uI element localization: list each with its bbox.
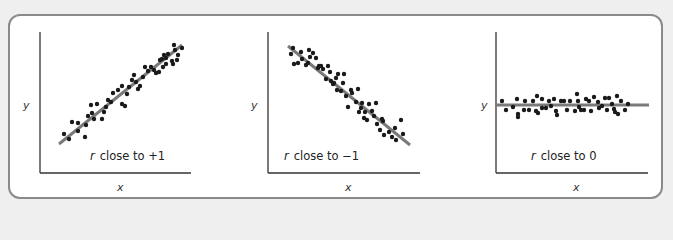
data-point [62, 132, 66, 136]
data-point [89, 103, 93, 107]
data-point [360, 101, 364, 105]
fit-line [288, 46, 410, 145]
y-axis-label: y [22, 99, 30, 112]
data-point [626, 102, 630, 106]
caption: rclose to +1 [90, 149, 165, 163]
data-point [535, 94, 539, 98]
x-axis-label: x [344, 181, 352, 194]
data-point [357, 110, 361, 114]
data-point [399, 118, 403, 122]
data-point [516, 115, 520, 119]
data-point [390, 135, 394, 139]
data-point [605, 108, 609, 112]
data-point [314, 56, 318, 60]
data-point [363, 110, 367, 114]
data-point [387, 130, 391, 134]
data-point [565, 108, 569, 112]
data-point [381, 119, 385, 123]
r-symbol: r [90, 149, 96, 163]
panel-positive-correlation: y x rclose to +1 [22, 32, 191, 194]
r-symbol: r [284, 149, 290, 163]
data-point [365, 118, 369, 122]
data-point [332, 81, 336, 85]
data-point [527, 108, 531, 112]
data-point [76, 129, 80, 133]
data-point [328, 70, 332, 74]
data-point [152, 68, 156, 72]
data-point [143, 65, 147, 69]
data-point [356, 87, 360, 91]
data-point [393, 126, 397, 130]
data-point [536, 111, 540, 115]
data-point [158, 58, 162, 62]
data-point [504, 108, 508, 112]
data-point [70, 120, 74, 124]
data-point [109, 100, 113, 104]
data-point [370, 109, 374, 113]
data-point [549, 104, 553, 108]
data-point [164, 62, 168, 66]
data-point [374, 101, 378, 105]
data-point [86, 114, 90, 118]
data-point [100, 117, 104, 121]
data-point [603, 96, 607, 100]
data-point [339, 89, 343, 93]
data-point [540, 106, 544, 110]
data-point [607, 96, 611, 100]
data-point [596, 100, 600, 104]
data-point [589, 109, 593, 113]
data-point [170, 59, 174, 63]
data-point [552, 97, 556, 101]
data-point [540, 97, 544, 101]
x-axis-label: x [572, 181, 580, 194]
data-point [367, 102, 371, 106]
data-point [67, 137, 71, 141]
data-point [568, 99, 572, 103]
data-point [307, 48, 311, 52]
data-point [111, 91, 115, 95]
data-point [562, 99, 566, 103]
data-point [573, 109, 577, 113]
data-point [311, 51, 315, 55]
data-point [326, 64, 330, 68]
data-point [575, 92, 579, 96]
data-point [616, 112, 620, 116]
data-point [120, 84, 124, 88]
data-point [592, 95, 596, 99]
y-axis-label: y [250, 99, 258, 112]
data-point [125, 92, 129, 96]
data-point [116, 88, 120, 92]
data-point [555, 113, 559, 117]
data-point [289, 52, 293, 56]
data-point [130, 78, 134, 82]
data-point [308, 55, 312, 59]
data-point [341, 81, 345, 85]
caption: rclose to −1 [284, 149, 359, 163]
data-point [334, 76, 338, 80]
data-point [394, 138, 398, 142]
data-point [127, 85, 131, 89]
data-point [544, 106, 548, 110]
data-point [523, 99, 527, 103]
r-symbol: r [531, 149, 537, 163]
data-point [600, 104, 604, 108]
data-point [321, 67, 325, 71]
caption-text: close to −1 [294, 149, 359, 163]
data-point [141, 75, 145, 79]
data-point [610, 102, 614, 106]
data-point [104, 105, 108, 109]
data-point [401, 132, 405, 136]
data-point [582, 108, 586, 112]
data-point [324, 77, 328, 81]
data-point [346, 105, 350, 109]
data-point [554, 109, 558, 113]
panel-no-correlation: y x rclose to 0 [480, 32, 649, 194]
data-point [522, 108, 526, 112]
data-point [123, 104, 127, 108]
data-point [299, 50, 303, 54]
data-point [146, 69, 150, 73]
data-point [83, 135, 87, 139]
data-point [173, 48, 177, 52]
data-point [291, 46, 295, 50]
data-point [136, 87, 140, 91]
